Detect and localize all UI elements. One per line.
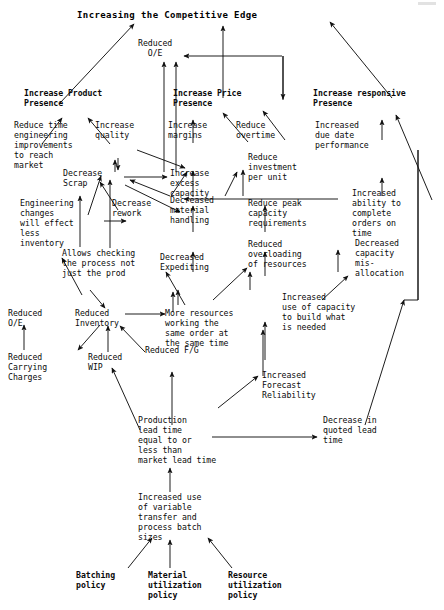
node-reduce-time-engineering: Reduce time engineering improvements to …: [14, 120, 73, 170]
node-increased-use-capacity: Increased use of capacity to build what …: [282, 292, 355, 332]
node-decrease-rework: Decrease rework: [112, 198, 151, 218]
node-reduced-carrying-charges: Reduced Carrying Charges: [8, 352, 47, 382]
node-material-utilization-policy: Material utilization policy: [148, 570, 202, 600]
node-reduce-peak-capacity: Reduce peak capacity requirements: [248, 198, 307, 228]
node-reduced-fg: Reduced F/G: [145, 345, 199, 355]
node-increase-margins: Increase margins: [168, 120, 207, 140]
node-reduce-investment-per-unit: Reduce investment per unit: [248, 152, 297, 182]
node-more-resources: More resources working the same order at…: [165, 308, 233, 348]
node-reduce-overtime: Reduce overtime: [236, 120, 275, 140]
diagram-title: Increasing the Competitive Edge: [77, 10, 257, 20]
node-production-lead-time: Production lead time equal to or less th…: [138, 415, 216, 465]
node-decrease-quoted-lead-time: Decrease in quoted lead time: [323, 415, 377, 445]
node-increase-quality: Increase quality: [95, 120, 134, 140]
node-increased-forecast-reliability: Increased Forecast Reliability: [262, 370, 316, 400]
node-reduced-overloading: Reduced overloading of resources: [248, 239, 307, 269]
node-increase-product-presence: Increase Product Presence: [24, 88, 102, 108]
node-reduced-oe-top: Reduced O/E: [138, 38, 172, 58]
node-increased-ability: Increased ability to complete orders on …: [352, 188, 401, 238]
node-increase-responsive-presence: Increase responsive Presence: [313, 88, 406, 108]
node-reduced-wip: Reduced WIP: [88, 352, 122, 372]
node-allows-checking: Allows checking the process not just the…: [62, 248, 135, 278]
diagram-canvas: Increasing the Competitive Edge Reduced …: [0, 0, 444, 610]
node-increased-use-variable: Increased use of variable transfer and p…: [138, 492, 201, 542]
node-reduced-oe-bottom: Reduced O/E: [8, 308, 42, 328]
node-increase-price-presence: Increase Price Presence: [173, 88, 241, 108]
node-batching-policy: Batching policy: [76, 570, 115, 590]
node-decreased-material-handling: Decreased material handling: [170, 195, 214, 225]
node-resource-utilization-policy: Resource utilization policy: [228, 570, 282, 600]
node-decrease-scrap: Decrease Scrap: [63, 168, 102, 188]
node-reduced-inventory: Reduced Inventory: [75, 308, 119, 328]
node-increase-excess-capacity: Increase excess capacity: [170, 168, 209, 198]
node-engineering-changes: Engineering changes will effect less inv…: [20, 198, 74, 248]
scan-artifact: [418, 2, 436, 5]
node-increased-due-date: Increased due date performance: [315, 120, 369, 150]
node-decreased-expediting: Decreased Expediting: [160, 252, 209, 272]
node-decreased-capacity-misallocation: Decreased capacity mis- allocation: [355, 238, 404, 278]
